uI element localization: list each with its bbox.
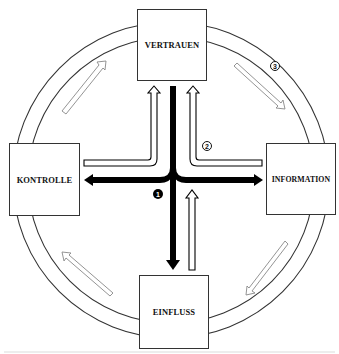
arrow-right-information-icon [254,174,263,186]
arrow-left-kontrolle-icon [84,174,93,186]
node-information-label: INFORMATION [272,175,331,184]
ring-arrow-bottom-left-icon [62,252,113,296]
node-einfluss: EINFLUSS [139,275,209,349]
caption-fragment [4,351,335,353]
marker-2: 2 [202,141,212,151]
ring-arrow-bottom-right-icon [246,241,288,295]
ring-arrow-top-left-icon [62,61,106,114]
node-kontrolle: KONTROLLE [9,143,80,216]
marker-1: 1 [153,189,163,199]
node-information: INFORMATION [266,143,336,215]
solid-arrows [84,86,263,270]
node-vertrauen: VERTRAUEN [137,9,207,81]
node-einfluss-label: EINFLUSS [153,307,195,317]
node-kontrolle-label: KONTROLLE [17,175,73,185]
marker-3: 3 [270,61,280,71]
node-vertrauen-label: VERTRAUEN [145,40,199,50]
diagram-canvas: VERTRAUEN KONTROLLE INFORMATION EINFLUSS… [0,0,339,354]
arrow-down-einfluss-icon [166,260,180,270]
